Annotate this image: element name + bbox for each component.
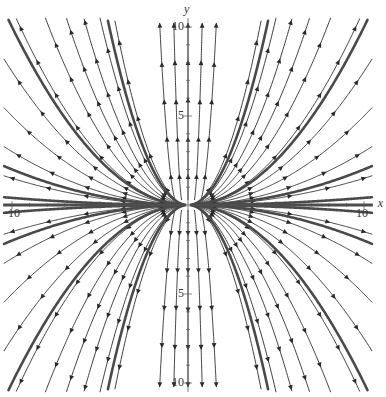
y-tick-label-10: 10: [172, 19, 184, 34]
arrowhead-icon: [248, 213, 254, 218]
streamline: [67, 205, 184, 391]
arrowhead-icon: [206, 137, 211, 142]
arrowhead-icon: [302, 29, 307, 35]
arrowhead-icon: [134, 237, 139, 242]
arrowhead-icon: [278, 166, 283, 171]
arrowhead-icon: [233, 162, 238, 168]
arrowhead-icon: [57, 250, 62, 255]
arrowhead-icon: [199, 60, 204, 65]
streamline-vertical: [195, 23, 203, 199]
streamline: [4, 205, 184, 302]
arrowhead-icon: [354, 80, 359, 85]
arrowhead-icon: [173, 345, 178, 350]
streamline: [192, 206, 261, 389]
arrowhead-icon: [276, 346, 281, 351]
arrowhead-icon: [254, 364, 259, 369]
arrowhead-icon: [276, 58, 281, 63]
arrowhead-icon: [84, 220, 90, 225]
arrowhead-icon: [206, 268, 211, 273]
arrowhead-icon: [199, 345, 204, 350]
arrowhead-icon: [202, 231, 207, 236]
streamline-vertical: [160, 23, 175, 199]
arrowhead-icon: [243, 121, 248, 127]
arrowhead-icon: [107, 312, 112, 318]
streamline: [192, 205, 309, 391]
streamline-vertical: [201, 210, 216, 386]
arrowhead-icon: [93, 166, 98, 171]
arrowhead-icon: [69, 375, 74, 381]
arrowhead-icon: [138, 242, 143, 248]
arrowhead-icon: [95, 346, 100, 351]
arrowhead-icon: [265, 312, 270, 318]
streamline-vertical: [160, 210, 175, 386]
arrowhead-icon: [248, 192, 254, 197]
arrowhead-icon: [314, 250, 319, 255]
arrowhead-icon: [107, 92, 112, 98]
arrowhead-icon: [46, 186, 51, 191]
arrowhead-icon: [107, 261, 112, 266]
streamline: [192, 19, 309, 205]
arrowhead-icon: [57, 155, 62, 160]
arrowhead-icon: [265, 144, 270, 149]
arrowhead-icon: [126, 79, 131, 84]
arrowhead-icon: [245, 79, 250, 84]
arrowhead-icon: [175, 268, 180, 273]
arrowhead-icon: [200, 382, 205, 387]
arrowhead-icon: [245, 325, 250, 330]
arrowhead-icon: [265, 92, 270, 98]
arrowhead-icon: [354, 325, 359, 330]
arrowhead-icon: [197, 306, 202, 311]
arrowhead-icon: [177, 174, 182, 179]
arrowhead-icon: [160, 62, 165, 67]
arrowhead-icon: [93, 239, 98, 244]
arrowhead-icon: [118, 40, 123, 45]
streamline: [115, 21, 184, 204]
phase-portrait-plot: [0, 0, 386, 397]
arrowhead-icon: [202, 174, 207, 179]
arrowhead-icon: [69, 29, 74, 35]
arrowhead-icon: [237, 237, 242, 242]
arrowhead-icon: [200, 23, 205, 28]
y-tick-label-5: 5: [178, 108, 184, 123]
arrowhead-icon: [214, 382, 219, 387]
arrowhead-icon: [18, 80, 23, 85]
y-tick-label-neg5: 5: [178, 286, 184, 301]
arrowhead-icon: [295, 125, 300, 130]
arrowhead-icon: [162, 306, 167, 311]
arrowhead-icon: [209, 99, 214, 104]
arrowhead-icon: [107, 144, 112, 149]
streamline: [67, 19, 184, 205]
streamline: [115, 206, 184, 389]
streamline: [192, 205, 372, 302]
arrowhead-icon: [157, 23, 162, 28]
arrowhead-icon: [265, 357, 270, 362]
arrowhead-icon: [169, 231, 174, 236]
arrowhead-icon: [165, 268, 170, 273]
streamline-vertical: [195, 210, 203, 386]
arrowhead-icon: [76, 125, 81, 130]
arrowhead-icon: [196, 137, 201, 142]
axes: [3, 18, 373, 392]
arrowhead-icon: [209, 306, 214, 311]
arrowhead-icon: [169, 174, 174, 179]
arrowhead-icon: [194, 231, 199, 236]
arrowhead-icon: [118, 364, 123, 369]
arrowhead-icon: [265, 48, 270, 53]
arrowhead-icon: [243, 283, 248, 289]
arrowhead-icon: [265, 261, 270, 266]
arrowhead-icon: [302, 375, 307, 381]
arrowhead-icon: [212, 343, 217, 348]
arrowhead-icon: [46, 219, 51, 224]
y-axis-label: y: [184, 2, 189, 17]
streamline: [192, 108, 372, 205]
x-axis-label: x: [378, 196, 383, 211]
arrowhead-icon: [254, 40, 259, 45]
arrowhead-icon: [173, 60, 178, 65]
arrowhead-icon: [95, 58, 100, 63]
arrowhead-icon: [197, 99, 202, 104]
arrowhead-icon: [126, 325, 131, 330]
arrowhead-icon: [165, 137, 170, 142]
arrowhead-icon: [106, 357, 111, 362]
arrowhead-icon: [278, 239, 283, 244]
arrowhead-icon: [325, 186, 330, 191]
